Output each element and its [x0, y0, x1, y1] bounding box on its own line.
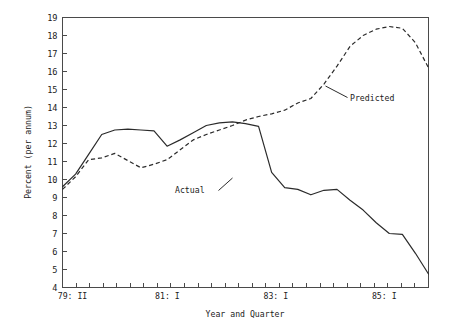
y-tick-label: 15 — [47, 85, 57, 95]
y-tick-label: 6 — [52, 247, 57, 257]
plot-border — [63, 18, 429, 288]
y-tick-label: 9 — [52, 193, 57, 203]
y-axis-title: Percent (per annum) — [23, 105, 33, 199]
chart-container: 19181716151413121110987654 79: II81: I83… — [0, 0, 455, 334]
y-tick-label: 14 — [47, 103, 57, 113]
x-axis-title: Year and Quarter — [206, 309, 285, 319]
y-tick-label: 5 — [52, 265, 57, 275]
predicted-label: Predicted — [350, 93, 394, 103]
y-axis-ticks — [63, 18, 68, 288]
x-tick-label: 81: I — [155, 291, 180, 301]
x-axis-ticks — [63, 283, 429, 288]
y-axis-tick-labels: 19181716151413121110987654 — [47, 13, 57, 293]
series-line-actual — [63, 122, 429, 274]
y-tick-label: 16 — [47, 67, 57, 77]
line-chart: 19181716151413121110987654 79: II81: I83… — [0, 0, 455, 334]
x-tick-label: 83: I — [264, 291, 289, 301]
y-tick-label: 17 — [47, 49, 57, 59]
actual-label: Actual — [175, 185, 205, 195]
x-tick-label: 79: II — [58, 291, 88, 301]
y-tick-label: 11 — [47, 157, 57, 167]
y-tick-label: 10 — [47, 175, 57, 185]
predicted-leader-line — [326, 86, 348, 98]
y-tick-label: 7 — [52, 229, 57, 239]
x-axis-tick-labels: 79: II81: I83: I85: I — [58, 291, 397, 301]
plot-frame — [63, 18, 429, 288]
x-tick-label: 85: I — [372, 291, 397, 301]
y-tick-label: 13 — [47, 121, 57, 131]
actual-leader-line — [219, 178, 233, 191]
y-tick-label: 19 — [47, 13, 57, 23]
series-line-predicted — [63, 27, 429, 190]
y-tick-label: 18 — [47, 31, 57, 41]
y-tick-label: 8 — [52, 211, 57, 221]
y-tick-label: 12 — [47, 139, 57, 149]
